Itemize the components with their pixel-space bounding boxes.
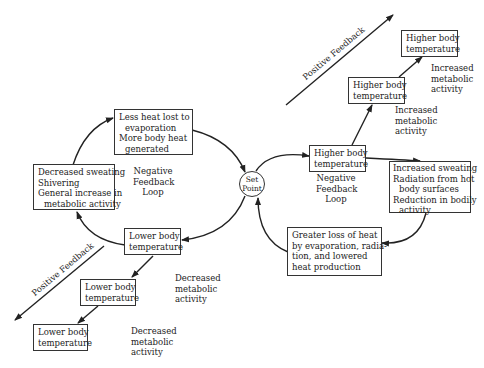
set-point-line2: Point: [240, 184, 264, 193]
label-text: Feedback: [316, 184, 356, 195]
set-point-node: Set Point: [239, 171, 265, 197]
box-less-heat-lost: Less heat lost to evaporation More body …: [114, 109, 193, 155]
box-text: Lower body: [85, 282, 131, 293]
box-text: tion, and lowered: [292, 251, 377, 262]
box-text: Decreased sweating: [38, 167, 110, 178]
box-higher-body-temp-2: Higher body temperature: [348, 77, 405, 104]
box-text: temperature: [129, 242, 176, 253]
box-lower-body-temp-3: Lower body temperature: [33, 324, 88, 351]
box-text: Shivering: [38, 178, 110, 189]
box-text: Less heat lost to: [119, 112, 188, 123]
note-decreased-metabolic-1: Decreased metabolic activity: [175, 273, 221, 305]
box-text: Radiation from hot: [393, 174, 467, 185]
box-text: body surfaces: [393, 184, 467, 195]
box-text: Higher body: [406, 33, 453, 44]
box-text: Reduction in bodily: [393, 195, 467, 206]
box-text: Lower body: [38, 327, 83, 338]
note-decreased-metabolic-2: Decreased metabolic activity: [131, 326, 177, 358]
note-increased-metabolic-1: Increased metabolic activity: [395, 105, 438, 137]
left-negative-feedback-label: Negative Feedback Loop: [133, 166, 173, 198]
box-text: metabolic activity: [38, 199, 110, 210]
label-text: Negative: [133, 166, 173, 177]
box-text: activity: [393, 205, 467, 216]
box-text: Lower body: [129, 231, 176, 242]
box-text: temperature: [314, 159, 361, 170]
box-text: temperature: [85, 293, 131, 304]
note-text: metabolic: [131, 337, 177, 348]
label-text: Feedback: [133, 177, 173, 188]
label-text: Loop: [316, 194, 356, 205]
box-text: General increase in: [38, 188, 110, 199]
note-text: Decreased: [131, 326, 177, 337]
note-text: Decreased: [175, 273, 221, 284]
box-text: by evaporation, radia-: [292, 241, 377, 252]
note-text: metabolic: [175, 284, 221, 295]
box-text: More body heat: [119, 133, 188, 144]
note-text: metabolic: [395, 116, 438, 127]
box-text: temperature: [38, 338, 83, 349]
note-text: activity: [431, 84, 474, 95]
thermoregulation-diagram: Set Point Less heat lost to evaporation …: [0, 0, 484, 368]
box-text: temperature: [353, 91, 400, 102]
note-text: Increased: [431, 63, 474, 74]
label-text: Negative: [316, 173, 356, 184]
box-text: temperature: [406, 44, 453, 55]
note-text: activity: [131, 347, 177, 358]
box-higher-body-temp-3: Higher body temperature: [401, 30, 458, 57]
box-text: generated: [119, 144, 188, 155]
note-increased-metabolic-2: Increased metabolic activity: [431, 63, 474, 95]
box-greater-loss-of-heat: Greater loss of heat by evaporation, rad…: [287, 227, 382, 276]
box-text: evaporation: [119, 123, 188, 134]
box-text: heat production: [292, 262, 377, 273]
box-increased-sweating: Increased sweating Radiation from hot bo…: [389, 161, 471, 213]
note-text: activity: [175, 294, 221, 305]
right-negative-feedback-label: Negative Feedback Loop: [316, 173, 356, 205]
box-text: Increased sweating: [393, 163, 467, 174]
note-text: metabolic: [431, 74, 474, 85]
label-text: Loop: [133, 187, 173, 198]
box-decreased-sweating: Decreased sweating Shivering General inc…: [33, 164, 115, 210]
box-text: Higher body: [353, 80, 400, 91]
box-text: Greater loss of heat: [292, 230, 377, 241]
box-lower-body-temp-2: Lower body temperature: [80, 279, 136, 306]
box-lower-body-temp-1: Lower body temperature: [124, 228, 181, 255]
box-higher-body-temp-1: Higher body temperature: [309, 145, 366, 172]
box-text: Higher body: [314, 148, 361, 159]
note-text: Increased: [395, 105, 438, 116]
set-point-line1: Set: [240, 175, 264, 184]
note-text: activity: [395, 126, 438, 137]
